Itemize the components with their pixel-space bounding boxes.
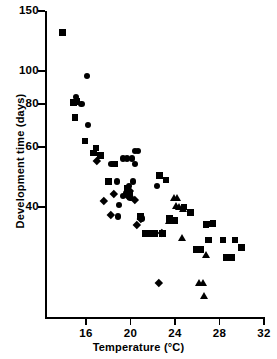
data-point-square bbox=[152, 230, 159, 237]
y-axis-line bbox=[45, 11, 47, 318]
data-point-diamond bbox=[154, 279, 162, 287]
data-point-square bbox=[137, 213, 144, 220]
data-point-diamond bbox=[124, 192, 132, 200]
y-tick-label-150: 150 bbox=[19, 5, 39, 17]
data-point-square bbox=[74, 98, 81, 105]
x-tick-32 bbox=[263, 318, 265, 325]
x-tick-24 bbox=[174, 318, 176, 325]
data-point-square bbox=[238, 244, 245, 251]
data-point-diamond bbox=[131, 196, 139, 204]
data-point-square bbox=[181, 204, 188, 211]
data-point-diamond bbox=[110, 190, 118, 198]
data-point-triangle bbox=[170, 194, 178, 201]
y-tick-label-40: 40 bbox=[26, 201, 39, 213]
data-point-square bbox=[142, 230, 149, 237]
y-tick-60 bbox=[38, 146, 45, 148]
y-tick-40 bbox=[38, 206, 45, 208]
data-point-square bbox=[124, 185, 131, 192]
data-point-square bbox=[220, 237, 227, 244]
plot-area bbox=[0, 0, 277, 359]
y-tick-100 bbox=[38, 70, 45, 72]
data-point-square bbox=[145, 230, 152, 237]
data-point-diamond bbox=[107, 211, 115, 219]
data-point-triangle bbox=[202, 251, 210, 258]
data-point-circle bbox=[115, 213, 121, 219]
data-point-square bbox=[203, 221, 210, 228]
data-point-square bbox=[105, 178, 112, 185]
scatter-chart: 150100806040 1620242832 Temperature (°C)… bbox=[0, 0, 277, 359]
data-point-square bbox=[197, 246, 204, 253]
data-point-triangle bbox=[175, 203, 183, 210]
y-tick-label-60: 60 bbox=[26, 141, 39, 153]
data-point-circle bbox=[135, 148, 141, 154]
data-point-square bbox=[70, 99, 77, 106]
x-tick-label-16: 16 bbox=[79, 328, 92, 340]
data-point-triangle bbox=[165, 217, 173, 224]
data-point-circle bbox=[132, 148, 138, 154]
data-point-diamond bbox=[100, 197, 108, 205]
data-point-circle bbox=[114, 178, 120, 184]
data-point-square bbox=[156, 172, 163, 179]
data-point-square bbox=[93, 145, 100, 152]
data-point-triangle bbox=[179, 205, 187, 212]
data-point-square bbox=[148, 230, 155, 237]
x-axis-line bbox=[45, 317, 265, 319]
x-tick-label-28: 28 bbox=[213, 328, 226, 340]
data-point-diamond bbox=[137, 215, 145, 223]
data-point-circle bbox=[132, 161, 138, 167]
data-point-diamond bbox=[93, 157, 101, 165]
x-tick-label-24: 24 bbox=[168, 328, 181, 340]
y-tick-80 bbox=[38, 103, 45, 105]
x-tick-label-20: 20 bbox=[124, 328, 137, 340]
data-point-triangle bbox=[172, 202, 180, 209]
x-tick-28 bbox=[219, 318, 221, 325]
data-point-triangle bbox=[178, 234, 186, 241]
data-point-square bbox=[187, 209, 194, 216]
data-point-circle bbox=[116, 202, 122, 208]
data-point-square bbox=[228, 254, 235, 261]
x-tick-label-32: 32 bbox=[257, 328, 270, 340]
data-point-circle bbox=[78, 101, 84, 107]
data-point-circle bbox=[130, 178, 136, 184]
data-point-circle bbox=[139, 215, 145, 221]
data-point-square bbox=[126, 190, 133, 197]
data-point-circle bbox=[108, 161, 114, 167]
data-point-diamond bbox=[158, 229, 166, 237]
data-point-circle bbox=[84, 73, 90, 79]
data-point-triangle bbox=[195, 279, 203, 286]
x-axis-title: Temperature (°C) bbox=[0, 341, 277, 353]
data-point-square bbox=[210, 220, 217, 227]
data-point-square bbox=[166, 215, 173, 222]
data-point-triangle bbox=[200, 292, 208, 299]
data-point-square bbox=[232, 237, 239, 244]
data-point-diamond bbox=[133, 221, 141, 229]
y-tick-label-80: 80 bbox=[26, 98, 39, 110]
data-point-circle bbox=[154, 183, 160, 189]
data-point-square bbox=[112, 161, 119, 168]
data-point-square bbox=[223, 254, 230, 261]
data-point-square bbox=[193, 246, 200, 253]
data-point-square bbox=[205, 237, 212, 244]
data-point-square bbox=[82, 138, 89, 145]
data-point-circle bbox=[85, 122, 91, 128]
data-point-circle bbox=[73, 94, 79, 100]
data-point-square bbox=[159, 230, 166, 237]
data-point-triangle bbox=[173, 194, 181, 201]
x-tick-20 bbox=[130, 318, 132, 325]
data-point-square bbox=[97, 152, 104, 159]
data-point-circle bbox=[127, 195, 133, 201]
data-point-square bbox=[163, 177, 170, 184]
data-point-circle bbox=[123, 190, 129, 196]
data-point-circle bbox=[120, 155, 126, 161]
data-point-circle bbox=[124, 155, 130, 161]
y-axis-title: Development time (days) bbox=[14, 61, 26, 261]
data-point-square bbox=[172, 217, 179, 224]
data-point-square bbox=[72, 114, 79, 121]
y-tick-150 bbox=[38, 10, 45, 12]
data-point-square bbox=[90, 150, 97, 157]
x-tick-16 bbox=[85, 318, 87, 325]
data-point-triangle bbox=[199, 279, 207, 286]
data-point-circle bbox=[126, 183, 132, 189]
data-point-circle bbox=[120, 193, 126, 199]
data-point-square bbox=[207, 221, 214, 228]
